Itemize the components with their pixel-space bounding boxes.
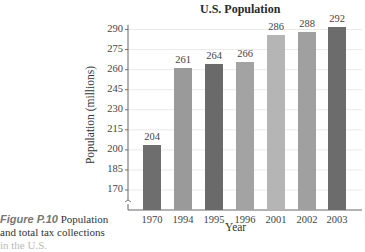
data-label: 266 — [230, 48, 260, 59]
y-tick-label: 170 — [97, 183, 123, 194]
bar-1995 — [205, 64, 223, 210]
bar-1970 — [143, 145, 161, 210]
x-tick-label: 2002 — [292, 214, 322, 225]
data-label: 286 — [261, 21, 291, 32]
data-label: 264 — [199, 50, 229, 61]
data-label: 261 — [168, 54, 198, 65]
y-tick-label: 275 — [97, 43, 123, 54]
x-tick-label: 1996 — [230, 214, 260, 225]
bar-1994 — [174, 68, 192, 210]
bar-1996 — [236, 62, 254, 210]
x-tick-label: 2001 — [261, 214, 291, 225]
x-tick-label: 1970 — [137, 214, 167, 225]
x-tick-label: 2003 — [322, 214, 352, 225]
y-tick-label: 290 — [97, 23, 123, 34]
bar-2001 — [267, 35, 285, 210]
figure-label: Figure P.10 — [0, 213, 58, 225]
y-tick-label: 215 — [97, 123, 123, 134]
bar-2002 — [298, 32, 316, 210]
bar-2003 — [328, 27, 346, 210]
x-tick-label: 1995 — [199, 214, 229, 225]
y-tick-label: 260 — [97, 63, 123, 74]
data-label: 204 — [137, 131, 167, 142]
caption-line3: in the U.S. — [0, 239, 47, 251]
data-label: 292 — [322, 13, 352, 24]
y-tick-label: 185 — [97, 163, 123, 174]
caption-line2: and total tax collections — [0, 226, 105, 238]
data-label: 288 — [292, 18, 322, 29]
caption-line1: Population — [61, 213, 109, 225]
y-tick-label: 230 — [97, 103, 123, 114]
y-tick-label: 200 — [97, 143, 123, 154]
y-tick-label: 245 — [97, 83, 123, 94]
figure-caption: Figure P.10 Population and total tax col… — [0, 213, 135, 252]
x-tick-label: 1994 — [168, 214, 198, 225]
